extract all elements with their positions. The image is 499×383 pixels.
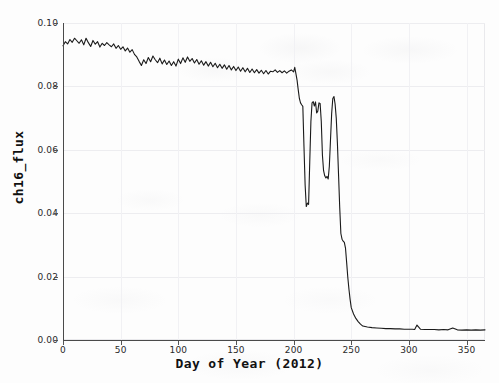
y-tick-label: 0.10 bbox=[8, 18, 58, 28]
x-tick-mark bbox=[178, 341, 179, 345]
x-tick-label: 300 bbox=[400, 345, 417, 355]
x-tick-mark bbox=[63, 341, 64, 345]
x-tick-label: 200 bbox=[285, 345, 302, 355]
y-axis-ticks: 0.000.020.040.060.080.10 bbox=[0, 23, 58, 340]
x-tick-mark bbox=[351, 341, 352, 345]
x-tick-mark bbox=[294, 341, 295, 345]
x-tick-label: 350 bbox=[458, 345, 475, 355]
x-tick-label: 0 bbox=[60, 345, 66, 355]
flux-series-line bbox=[63, 23, 485, 340]
y-tick-mark bbox=[54, 277, 58, 278]
y-tick-mark bbox=[54, 213, 58, 214]
x-tick-label: 50 bbox=[115, 345, 127, 355]
x-tick-label: 150 bbox=[227, 345, 244, 355]
x-axis-label: Day of Year (2012) bbox=[0, 356, 499, 371]
x-tick-mark bbox=[467, 341, 468, 345]
plot-area bbox=[63, 23, 485, 340]
y-axis-line bbox=[63, 23, 64, 341]
y-tick-mark bbox=[54, 23, 58, 24]
figure: 0.000.020.040.060.080.10 050100150200250… bbox=[0, 0, 499, 383]
x-tick-label: 250 bbox=[343, 345, 360, 355]
y-tick-label: 0.02 bbox=[8, 272, 58, 282]
y-tick-mark bbox=[54, 340, 58, 341]
x-tick-mark bbox=[236, 341, 237, 345]
y-tick-label: 0.00 bbox=[8, 335, 58, 345]
x-tick-mark bbox=[409, 341, 410, 345]
x-tick-mark bbox=[121, 341, 122, 345]
y-tick-mark bbox=[54, 86, 58, 87]
x-tick-label: 100 bbox=[170, 345, 187, 355]
y-axis-label: ch16_flux bbox=[11, 88, 26, 248]
y-tick-mark bbox=[54, 150, 58, 151]
